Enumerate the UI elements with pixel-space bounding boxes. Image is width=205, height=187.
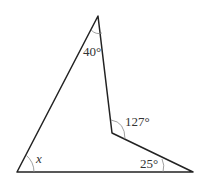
angle-label-x: x <box>35 151 42 166</box>
angle-label-bottom-right: 25° <box>140 156 158 171</box>
angle-label-reflex: 127° <box>125 114 150 129</box>
quadrilateral-outline <box>17 16 193 172</box>
angle-label-top: 40° <box>83 44 101 59</box>
angle-arc-bottom-left <box>26 155 34 172</box>
geometry-figure: 40° 127° 25° x <box>0 0 205 187</box>
angle-arc-bottom-right <box>162 159 164 172</box>
